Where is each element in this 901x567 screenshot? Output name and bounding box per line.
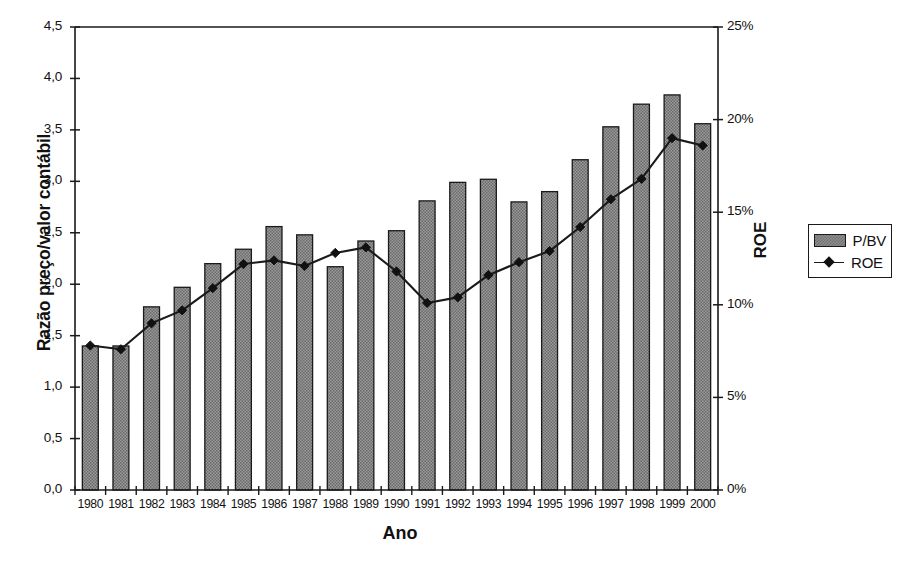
bar-1987 xyxy=(297,235,313,490)
y-tick-right-25%: 25% xyxy=(727,18,773,33)
y-tick-right-20%: 20% xyxy=(727,111,773,126)
bar-1998 xyxy=(633,104,649,490)
bar-1994 xyxy=(511,202,527,490)
bar-1991 xyxy=(419,201,435,490)
y-tick-left-0,5: 0,5 xyxy=(18,430,62,445)
bar-1988 xyxy=(327,267,343,490)
bar-1982 xyxy=(144,307,160,490)
y-tick-left-1,5: 1,5 xyxy=(18,327,62,342)
bar-1983 xyxy=(174,287,190,490)
bar-1995 xyxy=(542,192,558,490)
y-tick-left-3,0: 3,0 xyxy=(18,172,62,187)
y-tick-right-10%: 10% xyxy=(727,296,773,311)
y-tick-left-4,5: 4,5 xyxy=(18,18,62,33)
bar-1986 xyxy=(266,227,282,490)
y-tick-left-2,5: 2,5 xyxy=(18,224,62,239)
x-tick-2000: 2000 xyxy=(681,497,725,511)
bar-series-pbv xyxy=(82,95,710,490)
legend-item-pbv: P/BV xyxy=(814,229,886,251)
bar-1992 xyxy=(450,182,466,490)
bar-1996 xyxy=(572,160,588,490)
legend-label-pbv: P/BV xyxy=(853,232,886,249)
legend-item-roe: ROE xyxy=(814,251,886,273)
bar-1989 xyxy=(358,241,374,490)
bar-1981 xyxy=(113,346,129,490)
y-tick-left-2,0: 2,0 xyxy=(18,275,62,290)
y-tick-left-4,0: 4,0 xyxy=(18,69,62,84)
bar-swatch-icon xyxy=(814,234,846,247)
line-diamond-swatch-icon xyxy=(814,257,844,268)
bar-1999 xyxy=(664,95,680,490)
marker-1988 xyxy=(331,248,340,257)
bar-2000 xyxy=(695,124,711,490)
bar-1984 xyxy=(205,264,221,490)
chart-figure: Razão preço/valor contábil ROE Ano 0,00,… xyxy=(0,0,901,567)
legend: P/BV ROE xyxy=(808,224,892,278)
y-tick-left-3,5: 3,5 xyxy=(18,121,62,136)
y-tick-right-15%: 15% xyxy=(727,203,773,218)
legend-label-roe: ROE xyxy=(851,254,883,271)
y-tick-right-5%: 5% xyxy=(727,388,773,403)
bar-1980 xyxy=(82,346,98,490)
y-tick-right-0%: 0% xyxy=(727,481,773,496)
bar-1985 xyxy=(235,249,251,490)
y-tick-left-1,0: 1,0 xyxy=(18,378,62,393)
bar-1993 xyxy=(480,179,496,490)
bar-1997 xyxy=(603,127,619,490)
y-tick-left-0,0: 0,0 xyxy=(18,481,62,496)
